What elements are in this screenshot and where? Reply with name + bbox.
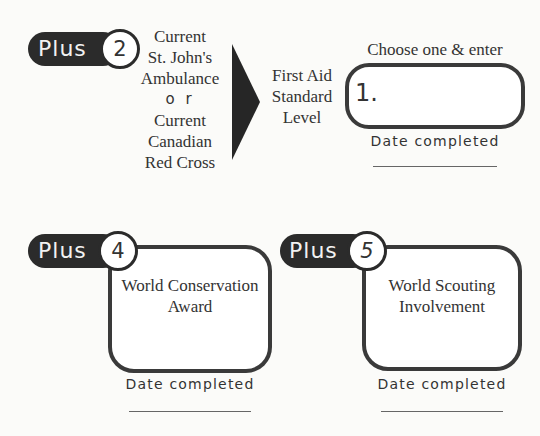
option-line: Current bbox=[135, 26, 225, 47]
date-completed-label: Date completed bbox=[345, 133, 525, 149]
title-line: World Scouting bbox=[366, 275, 518, 296]
entry-prefix: 1. bbox=[355, 79, 378, 107]
badge-word: Plus bbox=[38, 32, 87, 66]
title-line: World Conservation bbox=[112, 275, 268, 296]
badge-number: 4 bbox=[98, 231, 138, 271]
first-aid-options: Current St. John's Ambulance o r Current… bbox=[135, 26, 225, 173]
date-completed-label: Date completed bbox=[362, 376, 522, 392]
badge-number: 5 bbox=[347, 231, 387, 271]
option-line: Canadian bbox=[135, 131, 225, 152]
level-line: Level bbox=[262, 107, 342, 128]
option-or: o r bbox=[135, 89, 225, 110]
badge-number: 2 bbox=[100, 29, 140, 69]
date-completed-line[interactable] bbox=[373, 166, 497, 167]
instruction-text: Choose one & enter bbox=[345, 39, 525, 60]
box-title: World Conservation Award bbox=[112, 275, 268, 317]
badge-word: Plus bbox=[38, 234, 87, 268]
scouting-involvement-box: World Scouting Involvement bbox=[362, 245, 522, 371]
option-line: Red Cross bbox=[135, 152, 225, 173]
level-line: First Aid bbox=[262, 65, 342, 86]
arrow-right-icon bbox=[230, 44, 262, 160]
date-completed-line[interactable] bbox=[129, 411, 251, 412]
date-completed-line[interactable] bbox=[381, 411, 503, 412]
option-line: St. John's bbox=[135, 47, 225, 68]
option-line: Current bbox=[135, 110, 225, 131]
first-aid-entry-box[interactable]: 1. bbox=[345, 63, 525, 129]
level-line: Standard bbox=[262, 86, 342, 107]
option-line: Ambulance bbox=[135, 68, 225, 89]
badge-word: Plus bbox=[289, 234, 338, 268]
first-aid-level: First Aid Standard Level bbox=[262, 65, 342, 128]
box-title: World Scouting Involvement bbox=[366, 275, 518, 317]
date-completed-label: Date completed bbox=[108, 376, 272, 392]
title-line: Involvement bbox=[366, 296, 518, 317]
title-line: Award bbox=[112, 296, 268, 317]
